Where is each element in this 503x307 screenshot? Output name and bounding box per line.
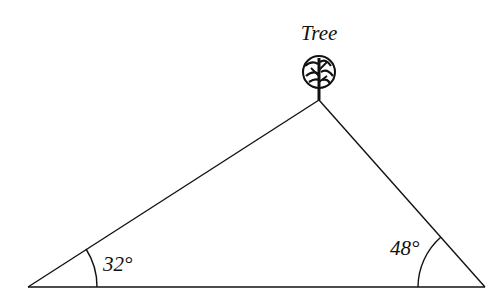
tree-icon [303,56,335,100]
left-angle-label: 32° [102,252,133,276]
right-angle-arc [418,237,441,287]
apex-label: Tree [301,21,338,45]
right-angle-label: 48° [390,236,420,260]
triangle-diagram: Tree 32° 48° [0,0,503,307]
left-side [28,100,319,287]
left-angle-arc [86,249,97,287]
